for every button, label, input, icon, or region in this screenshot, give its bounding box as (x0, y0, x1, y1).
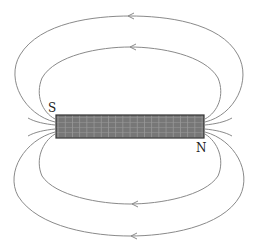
north-pole-label: N (196, 141, 207, 155)
south-pole-label: S (48, 101, 56, 115)
field-line-inner-top (39, 47, 221, 119)
field-line-fan-left-2 (28, 129, 55, 136)
field-line-fan-left-1 (28, 118, 55, 125)
field-line-fan-right-1 (205, 118, 232, 125)
field-line-fan-right-2 (205, 129, 232, 136)
field-line-inner-bottom (39, 134, 221, 204)
solenoid-field-diagram: S N (0, 0, 258, 249)
field-line-outer-bottom (14, 132, 244, 236)
solenoid-coil (56, 115, 204, 138)
